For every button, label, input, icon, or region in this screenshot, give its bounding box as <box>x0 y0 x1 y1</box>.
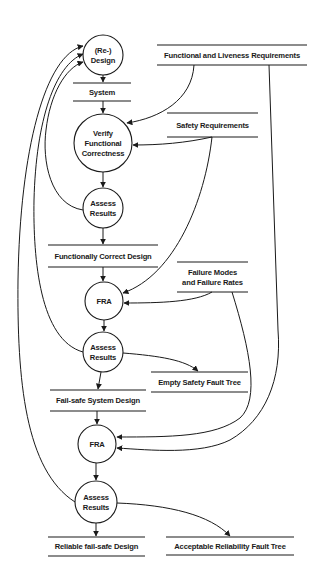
store-label: Failure Modes <box>188 268 237 277</box>
process-label: (Re-) <box>95 46 112 55</box>
flow-arrow-assess3-to-acceptable_ft <box>117 503 230 536</box>
flow-arrow-failure_modes-to-fra1 <box>124 292 212 303</box>
process-label: Functional <box>85 139 122 148</box>
store-func_correct: Functionally Correct Design <box>48 245 158 267</box>
flow-arrow-failure_modes-to-fra2 <box>117 292 251 437</box>
flow-arrow-assess2-to-empty_safety_ft <box>123 353 198 371</box>
process-label: Design <box>91 56 116 65</box>
store-acceptable_ft: Acceptable Reliability Fault Tree <box>166 537 294 555</box>
process-label: Assess <box>90 343 116 352</box>
store-safety_req: Safety Requirements <box>167 113 258 137</box>
process-label: Correctness <box>82 149 125 158</box>
fault-tree-process-diagram: SystemFunctional and Liveness Requiremen… <box>0 0 325 583</box>
process-label: Results <box>90 353 116 362</box>
process-label: FRA <box>96 297 112 306</box>
store-label: System <box>89 88 116 97</box>
flow-arrow-assess3-to-redesign <box>18 46 83 502</box>
store-label: Safety Requirements <box>176 121 249 130</box>
process-assess2: AssessResults <box>83 332 123 372</box>
process-label: Results <box>83 503 109 512</box>
store-failsafe_design: Fail-safe System Design <box>50 390 146 411</box>
flow-arrow-assess2-to-failsafe_design <box>98 372 101 389</box>
process-label: Results <box>90 209 116 218</box>
process-label: FRA <box>89 440 105 449</box>
process-label: Assess <box>90 199 116 208</box>
process-label: Assess <box>83 493 109 502</box>
process-verify: VerifyFunctionalCorrectness <box>74 114 132 172</box>
store-empty_safety_ft: Empty Safety Fault Tree <box>151 372 248 392</box>
process-fra1: FRA <box>85 282 123 320</box>
store-func_live_req: Functional and Liveness Requirements <box>157 45 307 65</box>
process-assess3: AssessResults <box>75 481 117 523</box>
store-label: Empty Safety Fault Tree <box>158 378 241 387</box>
store-label: Acceptable Reliability Fault Tree <box>174 542 286 551</box>
flow-arrow-safety_req-to-verify <box>133 137 212 145</box>
process-assess1: AssessResults <box>83 188 123 228</box>
flow-arrow-func_live_req-to-verify <box>127 65 194 123</box>
process-label: Verify <box>93 129 114 138</box>
store-label: Functionally Correct Design <box>54 252 152 261</box>
store-label: Reliable fail-safe Design <box>55 542 139 551</box>
flow-arrow-assess2-to-redesign <box>34 54 83 352</box>
store-system: System <box>73 83 131 101</box>
flow-arrows <box>18 46 279 536</box>
store-label: Functional and Liveness Requirements <box>164 51 300 60</box>
process-redesign: (Re-)Design <box>83 35 123 75</box>
store-failure_modes: Failure Modesand Failure Rates <box>177 262 248 292</box>
store-label: Fail-safe System Design <box>56 396 140 405</box>
store-label: and Failure Rates <box>182 278 243 287</box>
process-fra2: FRA <box>78 425 116 463</box>
store-reliable_design: Reliable fail-safe Design <box>48 537 145 556</box>
